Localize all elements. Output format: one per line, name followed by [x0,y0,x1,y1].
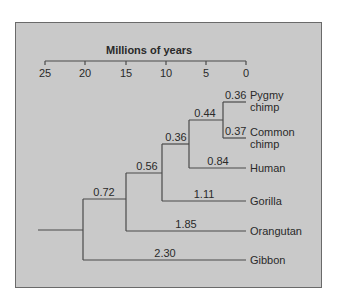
branch-length-pygmy: 0.36 [225,89,246,101]
tick-label-20: 20 [79,67,91,79]
taxon-human: Human [250,162,285,174]
taxon-name-line1: Pygmy [250,89,284,101]
branch-length-common: 0.37 [225,125,246,137]
branch-length-african-ape-node: 0.56 [136,160,157,172]
axis-title: Millions of years [106,44,192,56]
tick-label-0: 0 [243,67,249,79]
taxon-name-line1: Common [250,126,295,138]
taxon-name-line2: chimp [250,101,279,113]
taxon-orangutan: Orangutan [250,225,302,237]
branch-length-gibbon: 2.30 [154,247,175,259]
branch-length-chimp-human-node: 0.36 [165,131,186,143]
taxon-name-line2: chimp [250,138,279,150]
tick-label-10: 10 [160,67,172,79]
taxon-gibbon: Gibbon [250,254,285,266]
branch-length-great-ape-node: 0.72 [93,186,114,198]
branch-length-orangutan: 1.85 [175,218,196,230]
taxon-common-chimp: Common chimp [250,126,295,150]
tick-label-25: 25 [39,67,51,79]
taxon-gorilla: Gorilla [250,195,282,207]
branch-length-chimps-node: 0.44 [194,107,215,119]
tick-label-5: 5 [203,67,209,79]
taxon-pygmy-chimp: Pygmy chimp [250,89,284,113]
branch-length-gorilla: 1.11 [194,188,215,200]
tick-label-15: 15 [120,67,132,79]
branch-length-human: 0.84 [207,155,228,167]
